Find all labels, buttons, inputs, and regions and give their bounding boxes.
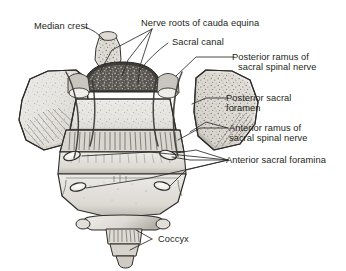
anatomical-figure: Median crest Nerve roots of cauda equina… [0,0,346,271]
label-nerve-roots-cauda-equina: Nerve roots of cauda equina [141,18,259,29]
label-posterior-sacral-foramen-line1: Posterior sacral [226,93,291,104]
label-anterior-ramus-line1: Anterior ramus of [229,123,301,134]
sacral-canal [68,62,179,98]
label-sacral-canal: Sacral canal [172,37,224,48]
label-anterior-sacral-foramina: Anterior sacral foramina [226,155,326,166]
label-posterior-sacral-foramen-line2: foramen [226,103,260,114]
label-anterior-ramus-line2: sacral spinal nerve [229,133,307,144]
label-posterior-ramus-line2: sacral spinal nerve [238,62,316,73]
label-posterior-ramus-line1: Posterior ramus of [232,52,309,63]
label-coccyx: Coccyx [158,234,189,245]
lower-sacrum [58,174,186,218]
label-median-crest: Median crest [34,21,88,32]
coccyx [76,215,170,268]
bone-drawing [19,27,258,268]
sacral-body-s1 [70,99,176,130]
